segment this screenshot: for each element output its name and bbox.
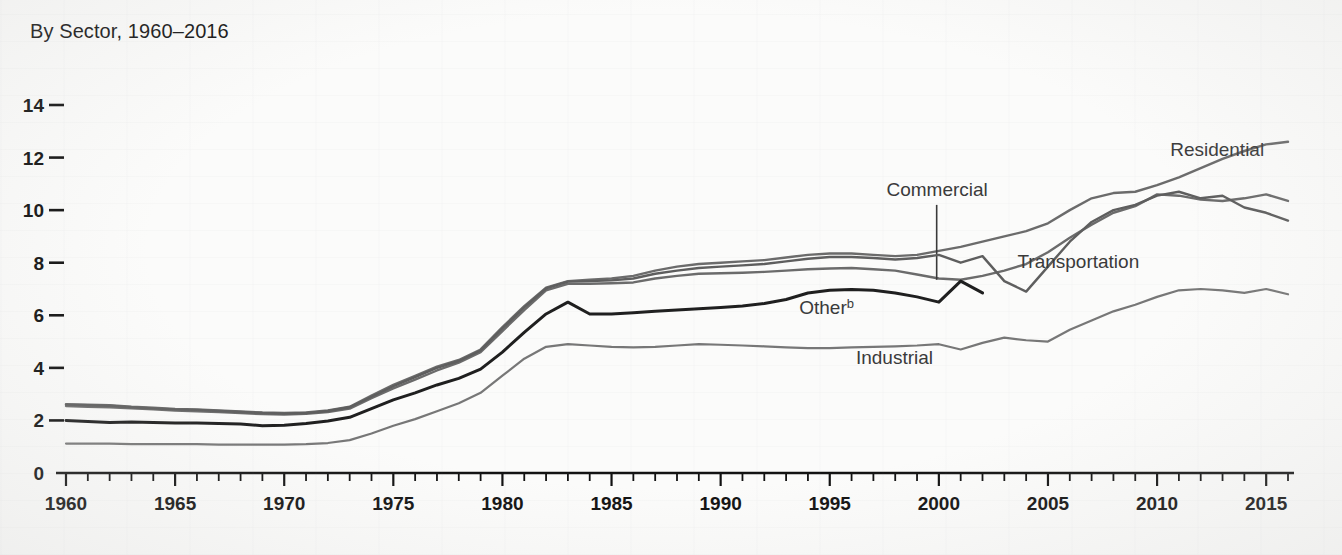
x-axis-tick-label: 1990 [700, 493, 742, 514]
x-axis-tick-label: 1970 [263, 493, 305, 514]
y-axis-tick-label: 8 [33, 253, 44, 274]
y-axis-tick-label: 2 [33, 410, 44, 431]
series-label-transportation: Transportation [1017, 251, 1139, 272]
x-axis-tick-label: 1975 [372, 493, 415, 514]
y-axis-tick-label: 10 [23, 200, 44, 221]
y-axis-tick-label: 4 [33, 358, 44, 379]
y-axis-tick-label: 6 [33, 305, 44, 326]
y-axis-tick-label: 12 [23, 148, 44, 169]
x-axis-tick-label: 2000 [918, 493, 960, 514]
series-line-industrial [66, 289, 1288, 445]
x-axis-tick-label: 1980 [481, 493, 523, 514]
series-label-industrial: Industrial [856, 347, 933, 368]
series-line-commercial [66, 194, 1288, 414]
x-axis-tick-label: 1960 [45, 493, 87, 514]
y-axis-tick-label: 0 [33, 463, 44, 484]
x-axis-tick-label: 1995 [809, 493, 852, 514]
x-axis-tick-label: 2010 [1136, 493, 1178, 514]
series-line-residential [66, 142, 1288, 413]
y-axis-tick-label: 14 [23, 95, 45, 116]
series-line-transportation [66, 192, 1288, 414]
series-label-other: Otherb [799, 296, 854, 318]
series-label-commercial: Commercial [886, 179, 987, 200]
series-label-residential: Residential [1170, 139, 1264, 160]
series-label-superscript: b [847, 296, 854, 311]
x-axis-tick-label: 2015 [1245, 493, 1288, 514]
chart-page: By Sector, 1960–2016 1960196519701975198… [0, 0, 1342, 555]
x-axis-tick-label: 1985 [590, 493, 633, 514]
line-chart-plot: 1960196519701975198019851990199520002005… [0, 0, 1342, 555]
x-axis-tick-label: 1965 [154, 493, 197, 514]
x-axis-tick-label: 2005 [1027, 493, 1070, 514]
